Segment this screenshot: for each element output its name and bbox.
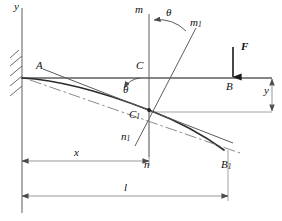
diagram-canvas: y A C B C1 B1 m n m1 n1 θ θ F y x l [0,0,282,221]
angle-label-theta-beam: θ [123,84,128,95]
point-label-A: A [36,60,43,71]
section-label-m: m [135,4,143,15]
point-label-C: C [136,60,143,71]
section-label-n1: n1 [121,131,130,143]
point-marker-C1 [147,108,151,112]
dimension-label-l: l [124,182,127,193]
beam-deflection-figure [0,0,282,221]
force-label-F: F [241,41,248,52]
tangent-line-at-C1 [43,69,233,143]
point-markers [147,108,151,112]
point-label-C1: C1 [129,109,140,121]
angle-label-theta-top: θ [166,7,171,18]
y-axis-label: y [14,1,19,12]
theta-arc-top [154,20,186,31]
point-label-B: B [226,81,233,92]
dimension-label-y: y [264,85,269,96]
dimension-label-x: x [74,147,79,158]
rotated-cross-section-line-m1n1 [135,28,196,146]
point-label-B1: B1 [221,159,231,171]
dimension-l [22,150,228,201]
section-label-m1: m1 [190,17,202,29]
fixed-wall-hatching [10,50,22,96]
section-label-n: n [144,159,150,170]
